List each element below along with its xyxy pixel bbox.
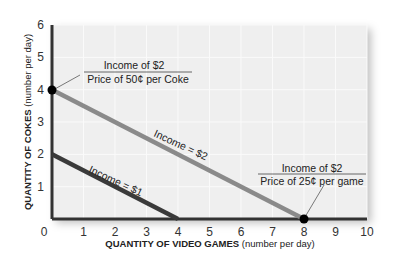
x-tick-9: 9 bbox=[332, 225, 339, 239]
x-axis-label: QUANTITY OF VIDEO GAMES (number per day) bbox=[105, 238, 314, 249]
y-tick-4: 4 bbox=[37, 83, 44, 97]
x-tick-2: 2 bbox=[112, 225, 119, 239]
annotation-1-numerator: Income of $2 bbox=[104, 59, 165, 71]
y-tick-labels: 123456 bbox=[37, 18, 44, 194]
x-tick-7: 7 bbox=[269, 225, 276, 239]
y-tick-3: 3 bbox=[37, 115, 44, 129]
y-tick-5: 5 bbox=[37, 50, 44, 64]
point-0-4 bbox=[48, 86, 57, 95]
y-tick-6: 6 bbox=[37, 18, 44, 32]
point-8-0 bbox=[300, 215, 309, 224]
y-tick-2: 2 bbox=[37, 147, 44, 161]
x-tick-5: 5 bbox=[206, 225, 213, 239]
x-tick-8: 8 bbox=[301, 225, 308, 239]
y-axis-label: QUANTITY OF COKES (number per day) bbox=[22, 34, 33, 210]
budget-constraint-chart: 012345678910 123456 Income = $2 Income =… bbox=[0, 0, 395, 265]
x-tick-3: 3 bbox=[143, 225, 150, 239]
x-tick-labels: 012345678910 bbox=[41, 225, 374, 239]
annotation-2-numerator: Income of $2 bbox=[282, 162, 343, 174]
annotation-1-denominator: Price of 50¢ per Coke bbox=[87, 73, 189, 85]
annotation-2-denominator: Price of 25¢ per game bbox=[260, 175, 363, 187]
y-tick-1: 1 bbox=[37, 180, 44, 194]
x-tick-0: 0 bbox=[41, 225, 48, 239]
x-tick-10: 10 bbox=[360, 225, 374, 239]
x-tick-6: 6 bbox=[238, 225, 245, 239]
x-tick-4: 4 bbox=[175, 225, 182, 239]
x-tick-1: 1 bbox=[80, 225, 87, 239]
